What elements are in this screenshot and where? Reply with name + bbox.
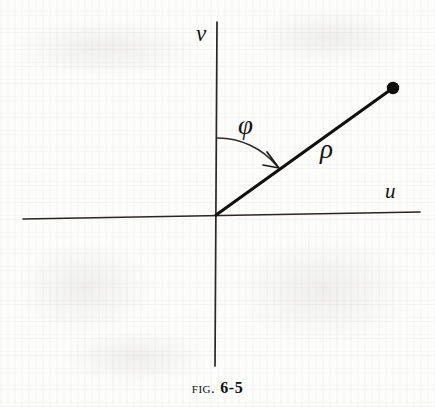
radial-ray — [216, 88, 393, 215]
figure-caption-number: 6-5 — [220, 379, 243, 396]
radius-label-rho: ρ — [320, 136, 333, 163]
horizontal-axis — [23, 212, 420, 219]
figure-page: v u φ ρ Fig.6-5 — [0, 0, 435, 407]
angle-label-phi: φ — [238, 112, 253, 139]
figure-caption: Fig.6-5 — [0, 379, 435, 397]
vertical-axis — [215, 22, 217, 366]
figure-caption-prefix: Fig. — [192, 380, 215, 396]
polar-coordinate-diagram — [0, 0, 435, 407]
endpoint-dot — [387, 82, 399, 94]
horizontal-axis-label: u — [385, 181, 396, 202]
vertical-axis-label: v — [196, 22, 206, 45]
